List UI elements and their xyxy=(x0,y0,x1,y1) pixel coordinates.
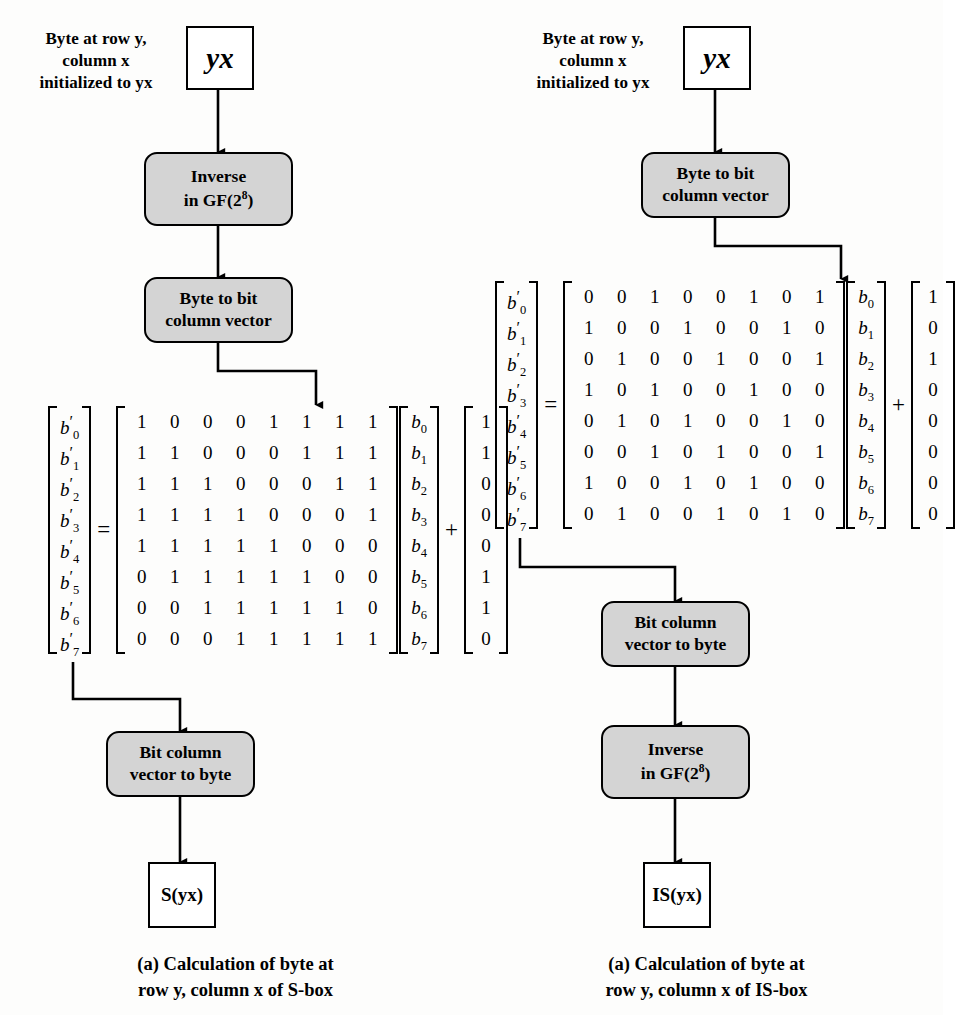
right-matrix-row-1: 10010010 xyxy=(572,312,836,343)
left-note-line-2: column x xyxy=(16,50,176,72)
left-matrix-cell-1-3: 0 xyxy=(224,437,257,468)
right-step3-paren: ) xyxy=(704,763,710,783)
right-matrix-cell-4-3: 1 xyxy=(671,405,704,436)
left-caption-line-1: (a) Calculation of byte at xyxy=(0,952,471,978)
left-input-cell-5: b5 xyxy=(408,561,430,592)
left-step-byte-to-bit: Byte to bit column vector xyxy=(144,277,293,343)
left-matrix-cell-1-4: 0 xyxy=(257,437,290,468)
right-matrix-cell-3-5: 1 xyxy=(737,374,770,405)
left-matrix-row-6: 00111110 xyxy=(125,592,389,623)
left-matrix-cell-6-7: 0 xyxy=(356,592,389,623)
right-matrix-cell-7-0: 0 xyxy=(572,498,605,529)
right-constant-cell-7: 0 xyxy=(920,498,946,529)
left-input-box-yx: yx xyxy=(186,26,254,90)
left-matrix-cell-2-5: 0 xyxy=(290,468,323,499)
left-step1-gf-text: in GF(2 xyxy=(184,190,242,210)
right-matrix-cell-2-5: 0 xyxy=(737,343,770,374)
right-result-cell-5: b′5 xyxy=(504,436,529,467)
right-equals-sign: = xyxy=(538,392,563,418)
right-result-cell-3: b′3 xyxy=(504,374,529,405)
right-input-cell-5: b5 xyxy=(855,436,877,467)
right-step3-gf-text: in GF(2 xyxy=(641,763,699,783)
left-result-cell-7: b′7 xyxy=(57,623,82,654)
left-matrix-cell-6-6: 1 xyxy=(323,592,356,623)
right-step2-line-2: vector to byte xyxy=(625,634,727,656)
right-matrix-row-2: 01001001 xyxy=(572,343,836,374)
left-matrix-cell-7-2: 0 xyxy=(191,623,224,654)
left-result-cell-1: b′1 xyxy=(57,437,82,468)
left-matrix-row-3: 11110001 xyxy=(125,499,389,530)
right-matrix-cell-5-0: 0 xyxy=(572,436,605,467)
right-note-line-1: Byte at row y, xyxy=(513,28,673,50)
right-step1-line-1: Byte to bit xyxy=(677,163,755,185)
right-matrix-cell-0-7: 1 xyxy=(803,281,836,312)
left-matrix-cell-5-1: 1 xyxy=(158,561,191,592)
left-matrix-cell-4-1: 1 xyxy=(158,530,191,561)
left-step2-line-1: Byte to bit xyxy=(180,288,258,310)
right-matrix-cell-1-1: 0 xyxy=(605,312,638,343)
left-matrix-cell-7-0: 0 xyxy=(125,623,158,654)
right-matrix-cell-4-4: 0 xyxy=(704,405,737,436)
right-result-cell-4: b′4 xyxy=(504,405,529,436)
right-matrix-cell-1-0: 1 xyxy=(572,312,605,343)
left-matrix-cell-0-2: 0 xyxy=(191,406,224,437)
right-output-box-label: IS(yx) xyxy=(652,884,702,906)
left-matrix-equation: b′0b′1b′2b′3b′4b′5b′6b′7 = 1000111111000… xyxy=(48,406,508,654)
left-matrix-cell-5-3: 1 xyxy=(224,561,257,592)
left-matrix-cell-0-1: 0 xyxy=(158,406,191,437)
left-matrix-cell-5-2: 1 xyxy=(191,561,224,592)
left-matrix-cell-3-6: 0 xyxy=(323,499,356,530)
right-result-cell-0: b′0 xyxy=(504,281,529,312)
right-constant-cell-2: 1 xyxy=(920,343,946,374)
left-result-cell-5: b′5 xyxy=(57,561,82,592)
left-matrix-cell-0-5: 1 xyxy=(290,406,323,437)
right-input-cell-0: b0 xyxy=(855,281,877,312)
right-matrix-cell-2-0: 0 xyxy=(572,343,605,374)
left-matrix-cell-1-5: 1 xyxy=(290,437,323,468)
left-equals-sign: = xyxy=(91,517,116,543)
right-matrix-cell-1-2: 0 xyxy=(638,312,671,343)
right-matrix-row-4: 01010010 xyxy=(572,405,836,436)
right-matrix-cell-3-1: 0 xyxy=(605,374,638,405)
right-matrix-cell-5-1: 0 xyxy=(605,436,638,467)
left-matrix-cell-6-4: 1 xyxy=(257,592,290,623)
left-result-cell-2: b′2 xyxy=(57,468,82,499)
right-caption-line-1: (a) Calculation of byte at xyxy=(471,952,942,978)
left-matrix-cell-1-6: 1 xyxy=(323,437,356,468)
right-input-box-label: yx xyxy=(703,42,730,75)
right-matrix-cell-3-4: 0 xyxy=(704,374,737,405)
left-matrix-cell-7-3: 1 xyxy=(224,623,257,654)
left-matrix-cell-0-4: 1 xyxy=(257,406,290,437)
left-matrix-cell-1-7: 1 xyxy=(356,437,389,468)
right-input-box-yx: yx xyxy=(683,26,751,90)
right-matrix-cell-2-7: 1 xyxy=(803,343,836,374)
left-output-box-label: S(yx) xyxy=(161,884,203,906)
left-matrix-cell-0-0: 1 xyxy=(125,406,158,437)
left-input-cell-2: b2 xyxy=(408,468,430,499)
right-matrix-cell-0-0: 0 xyxy=(572,281,605,312)
right-input-cell-2: b2 xyxy=(855,343,877,374)
right-result-cell-7: b′7 xyxy=(504,498,529,529)
left-matrix-cell-4-7: 0 xyxy=(356,530,389,561)
right-matrix-cell-7-3: 0 xyxy=(671,498,704,529)
left-input-cell-6: b6 xyxy=(408,592,430,623)
right-matrix-cell-5-5: 0 xyxy=(737,436,770,467)
right-matrix-cell-6-0: 1 xyxy=(572,467,605,498)
right-input-cell-6: b6 xyxy=(855,467,877,498)
left-matrix-cell-1-2: 0 xyxy=(191,437,224,468)
right-plus-sign: + xyxy=(886,392,911,418)
right-matrix-cell-7-4: 1 xyxy=(704,498,737,529)
right-output-box-isbox: IS(yx) xyxy=(643,862,711,928)
right-input-cell-7: b7 xyxy=(855,498,877,529)
left-matrix-cell-5-7: 0 xyxy=(356,561,389,592)
right-matrix-cell-5-6: 0 xyxy=(770,436,803,467)
right-step3-line-2: in GF(28) xyxy=(641,761,710,785)
right-matrix-cell-0-5: 1 xyxy=(737,281,770,312)
right-matrix-cell-4-7: 0 xyxy=(803,405,836,436)
left-step-bit-to-byte: Bit column vector to byte xyxy=(106,731,255,797)
right-matrix-cell-6-2: 0 xyxy=(638,467,671,498)
right-constant-cell-3: 0 xyxy=(920,374,946,405)
right-matrix-cell-6-4: 0 xyxy=(704,467,737,498)
right-result-vector: b′0b′1b′2b′3b′4b′5b′6b′7 xyxy=(495,281,538,529)
